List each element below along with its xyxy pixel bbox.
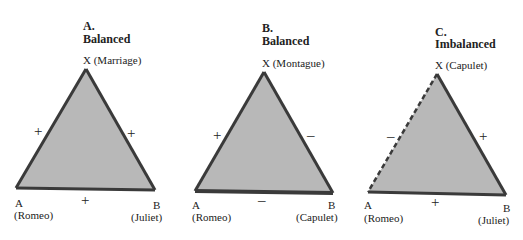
panel-a-vertex-b-name: (Juliet) — [131, 211, 162, 223]
panel-a-letter: A. — [83, 19, 95, 33]
panel-b-apex-label: X (Montague) — [262, 57, 325, 69]
panel-b-status: Balanced — [262, 34, 309, 48]
panel-b-sign-bottom: – — [258, 193, 266, 208]
panel-b-vertex-b: B — [328, 199, 335, 211]
panel-c-apex-label: X (Capulet) — [435, 59, 487, 71]
panel-c-status: Imbalanced — [435, 37, 496, 51]
panel-c-sign-bottom: + — [431, 195, 439, 210]
panel-a-sign-bottom: + — [81, 193, 89, 208]
panel-c-vertex-b-name: (Juliet) — [478, 214, 509, 226]
panel-b-letter: B. — [262, 21, 273, 35]
panel-a-vertex-a-name: (Romeo) — [14, 209, 53, 221]
panel-b-vertex-a-name: (Romeo) — [192, 211, 231, 223]
panel-a-apex-label: X (Marriage) — [83, 54, 141, 66]
panel-b-sign-right: – — [307, 128, 315, 143]
panel-b-sign-left: + — [213, 128, 221, 143]
panel-c-vertex-a-name: (Romeo) — [364, 212, 403, 224]
panel-b-vertex-b-name: (Capulet) — [296, 211, 338, 223]
panel-c-vertex-b: B — [503, 202, 510, 214]
panel-b-vertex-a: A — [192, 199, 200, 211]
panel-a-status: Balanced — [83, 32, 130, 46]
panel-c-sign-left: – — [387, 129, 395, 144]
panel-c-sign-right: + — [479, 129, 487, 144]
panel-a-sign-left: + — [34, 124, 42, 139]
triangle-a-edge-bottom — [16, 188, 155, 190]
panel-c-vertex-a: A — [364, 199, 372, 211]
panel-a-sign-right: + — [127, 126, 135, 141]
panel-a-vertex-a: A — [15, 197, 23, 209]
panel-a-vertex-b: B — [153, 199, 160, 211]
